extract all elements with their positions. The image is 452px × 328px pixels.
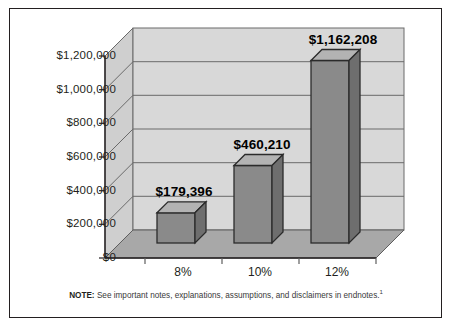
y-axis-label-0: $0 bbox=[16, 251, 116, 263]
bar-value-label-1: $460,210 bbox=[233, 137, 290, 152]
chart-figure: $1,200,000 $1,000,000 $800,000 $600,000 … bbox=[0, 0, 452, 328]
y-axis-label-1200000: $1,200,000 bbox=[16, 49, 116, 61]
bar-front-1[interactable] bbox=[234, 166, 272, 244]
bar-value-label-0: $179,396 bbox=[155, 184, 212, 199]
footnote-text: See important notes, explanations, assum… bbox=[95, 291, 380, 300]
y-axis-labels: $1,200,000 $1,000,000 $800,000 $600,000 … bbox=[16, 0, 116, 328]
bar-side-1 bbox=[272, 155, 283, 244]
y-axis-label-600000: $600,000 bbox=[16, 150, 116, 162]
bar-side-2 bbox=[349, 50, 360, 244]
x-axis-label-2: 12% bbox=[325, 265, 349, 279]
x-axis-label-1: 10% bbox=[248, 265, 272, 279]
bar-group-0[interactable] bbox=[157, 202, 206, 243]
bar-group-2[interactable] bbox=[311, 50, 360, 244]
x-axis-label-0: 8% bbox=[174, 265, 191, 279]
bar-value-label-2: $1,162,208 bbox=[309, 32, 378, 47]
bar-front-2[interactable] bbox=[311, 61, 349, 244]
footnote-label: NOTE: bbox=[69, 291, 94, 300]
chart-footnote: NOTE: See important notes, explanations,… bbox=[20, 289, 432, 300]
y-axis-label-400000: $400,000 bbox=[16, 184, 116, 196]
bar-group-1[interactable] bbox=[234, 155, 283, 244]
chart-plot-area: $1,200,000 $1,000,000 $800,000 $600,000 … bbox=[0, 0, 452, 328]
footnote-superscript: 1 bbox=[380, 289, 383, 295]
y-axis-label-200000: $200,000 bbox=[16, 217, 116, 229]
y-axis-label-800000: $800,000 bbox=[16, 116, 116, 128]
y-axis-label-1000000: $1,000,000 bbox=[16, 83, 116, 95]
bar-front-0[interactable] bbox=[157, 213, 195, 243]
